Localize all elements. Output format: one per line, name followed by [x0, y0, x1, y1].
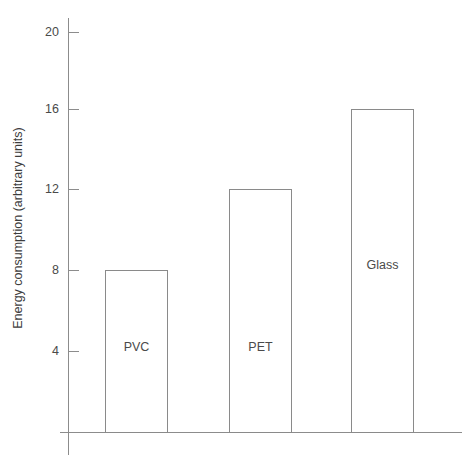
- y-tick-label-12: 12: [45, 182, 59, 196]
- bar-pet[interactable]: [230, 190, 292, 433]
- bar-label-glass: Glass: [367, 258, 399, 272]
- bar-chart-figure: 20 16 12 8 4 Energy consumption (arbitra…: [0, 0, 464, 457]
- y-axis-tick-labels: 20 16 12 8 4: [45, 25, 59, 358]
- y-axis-ticks: [69, 33, 80, 352]
- bar-label-pvc: PVC: [124, 340, 150, 354]
- y-tick-label-16: 16: [45, 102, 59, 116]
- y-tick-label-4: 4: [52, 344, 59, 358]
- y-tick-label-20: 20: [45, 25, 59, 39]
- y-axis-title: Energy consumption (arbitrary units): [11, 127, 25, 328]
- chart-canvas: 20 16 12 8 4 Energy consumption (arbitra…: [0, 0, 464, 457]
- bar-label-pet: PET: [248, 340, 273, 354]
- y-tick-label-8: 8: [52, 263, 59, 277]
